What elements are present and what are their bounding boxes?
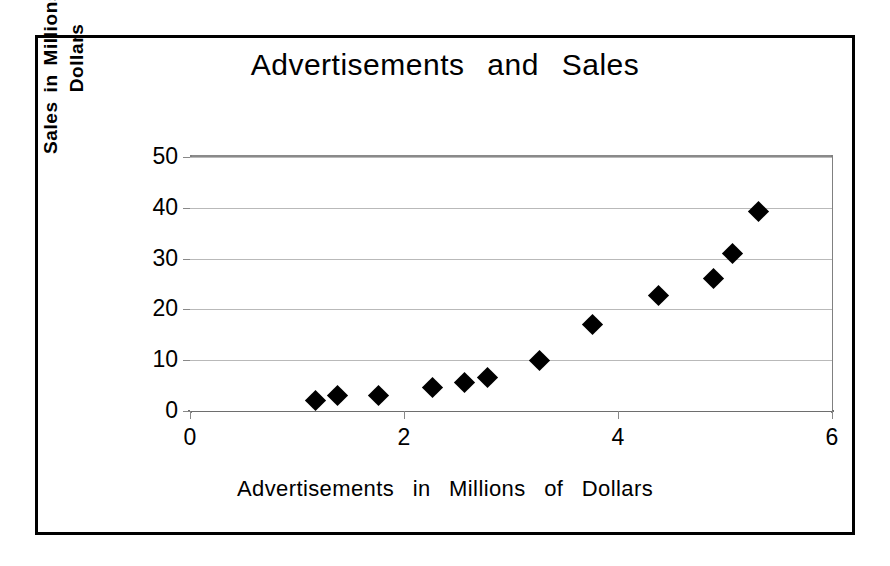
x-tick-mark <box>190 411 191 419</box>
gridline-y <box>190 309 832 310</box>
y-tick-mark <box>183 208 190 209</box>
y-tick-mark <box>183 411 190 412</box>
chart-figure: Advertisements and Sales Sales in Millio… <box>0 0 890 566</box>
y-tick-mark <box>183 259 190 260</box>
x-tick-label: 0 <box>160 424 220 451</box>
scatter-point <box>305 390 326 411</box>
y-tick-label: 10 <box>138 348 178 371</box>
y-tick-mark <box>183 157 190 158</box>
y-axis-title-line-2: Dollars <box>64 0 90 198</box>
scatter-point <box>703 268 724 289</box>
x-tick-label: 6 <box>802 424 862 451</box>
scatter-point <box>368 385 389 406</box>
x-tick-label: 2 <box>374 424 434 451</box>
y-axis-title-line-1: Sales in Millions of <box>38 0 64 198</box>
y-tick-label: 30 <box>138 247 178 270</box>
scatter-point <box>422 377 443 398</box>
y-axis-title: Sales in Millions of Dollars <box>38 0 108 198</box>
y-tick-mark <box>183 309 190 310</box>
plot-area <box>190 157 832 411</box>
y-tick-label: 50 <box>138 145 178 168</box>
x-axis-title: Advertisements in Millions of Dollars <box>0 476 890 502</box>
scatter-point <box>454 371 475 392</box>
scatter-point <box>582 314 603 335</box>
scatter-point <box>648 285 669 306</box>
y-tick-mark <box>183 360 190 361</box>
scatter-point <box>529 350 550 371</box>
x-tick-mark <box>404 411 405 419</box>
x-tick-label: 4 <box>588 424 648 451</box>
x-tick-mark <box>618 411 619 419</box>
y-tick-label: 0 <box>138 399 178 422</box>
x-tick-mark <box>832 411 833 419</box>
gridline-y <box>190 157 832 158</box>
gridline-y <box>190 360 832 361</box>
scatter-point <box>477 367 498 388</box>
y-tick-label: 40 <box>138 196 178 219</box>
scatter-point <box>327 385 348 406</box>
y-tick-label: 20 <box>138 297 178 320</box>
gridline-y <box>190 208 832 209</box>
scatter-point <box>748 201 769 222</box>
scatter-point <box>722 243 743 264</box>
